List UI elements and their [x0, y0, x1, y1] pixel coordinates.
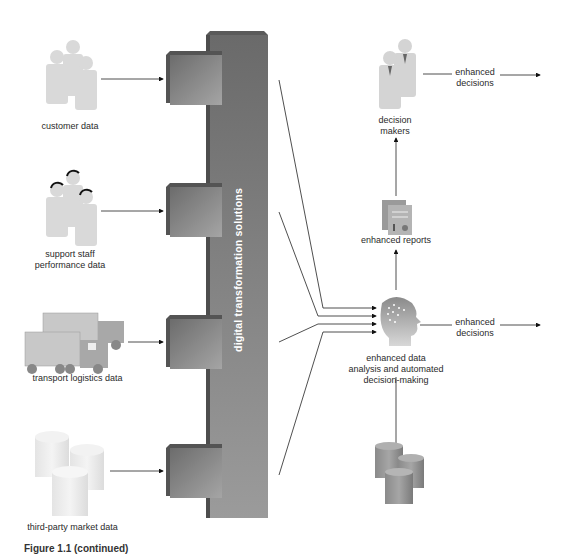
business-people-icon	[379, 39, 416, 109]
input-label-transport: transport logistics data	[20, 373, 135, 384]
output-label-top: enhanced decisions	[450, 67, 500, 89]
brain-head-icon	[381, 297, 421, 346]
reports-icon	[382, 200, 412, 235]
processor-label: enhanced data analysis and automated dec…	[346, 353, 446, 386]
connector-box-3	[166, 315, 222, 369]
figure-caption: Figure 1.1 (continued)	[24, 543, 128, 554]
output-arrows	[420, 74, 540, 325]
input-label-support: support staff performance data	[25, 249, 115, 271]
input-label-market: third-party market data	[20, 522, 125, 533]
trucks-icon	[25, 313, 124, 374]
output-label-middle: enhanced decisions	[450, 317, 500, 339]
connector-box-4	[166, 444, 222, 498]
central-column-label: digital transformation solutions	[228, 155, 248, 385]
headset-people-icon	[46, 171, 97, 246]
people-icon	[46, 40, 97, 110]
input-label-customer: customer data	[30, 121, 110, 132]
column-to-processor-lines	[279, 80, 376, 475]
storage-database-icon	[375, 442, 424, 504]
connector-box-1	[166, 51, 222, 105]
connector-box-2	[166, 183, 222, 237]
decision-makers-label: decision makers	[370, 115, 420, 137]
database-icon	[35, 431, 104, 516]
input-arrows	[101, 79, 163, 471]
reports-label: enhanced reports	[356, 235, 436, 246]
